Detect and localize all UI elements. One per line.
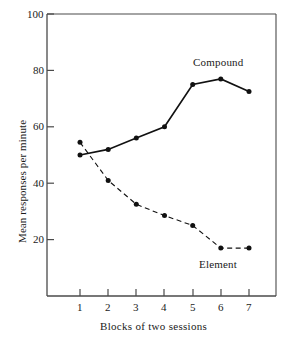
data-point-element-4	[162, 213, 167, 218]
data-point-compound-5	[190, 82, 195, 87]
y-axis-ticks	[47, 14, 54, 240]
x-tick-label-1: 1	[77, 302, 83, 313]
x-tick-label-3: 3	[133, 302, 139, 313]
series-annotation-compound: Compound	[193, 57, 244, 68]
data-point-compound-4	[162, 124, 167, 129]
y-tick-label-80: 80	[33, 65, 44, 76]
x-tick-label-5: 5	[190, 302, 196, 313]
data-point-element-5	[190, 223, 195, 228]
series-annotation-element: Element	[199, 259, 237, 270]
series-line-element	[80, 142, 249, 248]
y-tick-label-100: 100	[27, 9, 44, 20]
data-point-element-1	[78, 140, 83, 145]
figure-container: 100 80 60 40 20 1 2 3 4 5 6 7 Mean respo…	[0, 0, 290, 340]
x-tick-label-4: 4	[161, 302, 167, 313]
data-point-element-3	[134, 202, 139, 207]
x-tick-label-6: 6	[218, 302, 224, 313]
x-tick-label-2: 2	[105, 302, 111, 313]
data-point-compound-2	[106, 147, 111, 152]
data-point-compound-6	[218, 76, 223, 81]
data-point-compound-7	[247, 89, 252, 94]
chart-plot-area	[0, 0, 290, 340]
series-element	[78, 140, 252, 251]
x-tick-label-7: 7	[246, 302, 252, 313]
data-point-element-6	[218, 246, 223, 251]
series-compound	[78, 76, 252, 157]
data-point-compound-1	[78, 153, 83, 158]
series-line-compound	[80, 79, 249, 155]
y-tick-label-40: 40	[33, 178, 44, 189]
data-point-compound-3	[134, 136, 139, 141]
data-point-element-7	[247, 246, 252, 251]
y-tick-label-60: 60	[33, 121, 44, 132]
y-axis-title: Mean responses per minute	[16, 120, 28, 243]
data-series-layer	[78, 76, 252, 250]
data-point-element-2	[106, 178, 111, 183]
y-tick-label-20: 20	[33, 234, 44, 245]
x-axis-ticks	[80, 289, 249, 296]
x-axis-title: Blocks of two sessions	[100, 320, 207, 332]
